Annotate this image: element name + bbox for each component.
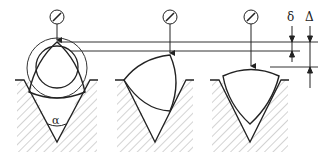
reference-lines xyxy=(57,42,318,67)
v-block-measurement-diagram xyxy=(0,0,329,161)
delta-large-label: Δ xyxy=(305,11,314,23)
inner-circle xyxy=(36,46,78,88)
delta-small-label: δ xyxy=(287,11,294,23)
view-3 xyxy=(210,10,289,152)
dimension-delta-large xyxy=(308,26,313,88)
view-1 xyxy=(15,10,98,152)
view-2 xyxy=(115,10,194,152)
angle-alpha-label: α xyxy=(52,115,59,126)
dimension-delta-small xyxy=(290,26,295,62)
